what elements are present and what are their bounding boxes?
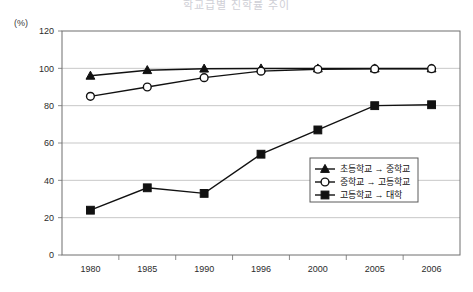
x-tick-label-2005: 2005 (365, 264, 385, 274)
y-axis-tick-labels: 020406080100120 (39, 26, 54, 260)
line-chart-canvas: 020406080100120 198019851990199620002005… (0, 0, 473, 292)
y-tick-label-20: 20 (44, 213, 54, 223)
gridlines-group (58, 31, 460, 255)
y-tick-label-40: 40 (44, 176, 54, 186)
data-point-2-2000 (314, 65, 322, 73)
data-point-3-2000 (314, 126, 322, 134)
data-point-2-2006 (428, 65, 436, 73)
y-tick-label-120: 120 (39, 26, 54, 36)
y-tick-label-100: 100 (39, 64, 54, 74)
x-tick-label-2000: 2000 (308, 264, 328, 274)
data-point-3-1996 (257, 150, 265, 158)
data-point-2-1985 (143, 83, 151, 91)
legend-label-1: 초등학교 → 중학교 (340, 164, 410, 174)
data-point-3-2005 (371, 102, 379, 110)
x-tick-label-1985: 1985 (137, 264, 157, 274)
x-tick-label-2006: 2006 (422, 264, 442, 274)
data-point-2-1980 (87, 92, 95, 100)
data-point-3-1985 (143, 184, 151, 192)
chart-figure: 학교급별 진학률 추이 (%) 020406080100120 19801985… (0, 0, 473, 292)
data-point-2-1996 (257, 67, 265, 75)
legend-marker-square-filled (321, 191, 329, 199)
series-2 (87, 65, 436, 100)
x-tick-label-1990: 1990 (194, 264, 214, 274)
data-point-3-1990 (200, 190, 208, 198)
data-point-3-1980 (87, 206, 95, 214)
x-axis-tick-labels: 1980198519901996200020052006 (80, 264, 441, 274)
legend-marker-circle-open (321, 178, 329, 186)
data-point-2-1990 (200, 74, 208, 82)
legend-entry-3[interactable]: 고등학교 → 대학 (315, 190, 402, 200)
chart-legend[interactable]: 초등학교 → 중학교중학교 → 고등학교고등학교 → 대학 (310, 158, 418, 202)
x-tick-label-1980: 1980 (80, 264, 100, 274)
y-tick-label-80: 80 (44, 101, 54, 111)
data-point-3-2006 (428, 101, 436, 109)
y-tick-label-0: 0 (49, 250, 54, 260)
x-tick-label-1996: 1996 (251, 264, 271, 274)
legend-label-2: 중학교 → 고등학교 (340, 177, 410, 187)
y-tick-label-60: 60 (44, 138, 54, 148)
data-point-2-2005 (371, 65, 379, 73)
x-axis-tickmarks (119, 255, 403, 260)
legend-label-3: 고등학교 → 대학 (340, 190, 402, 200)
